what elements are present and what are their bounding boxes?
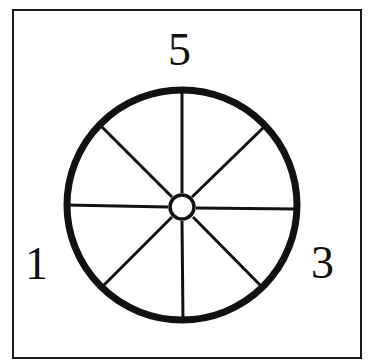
label-left: 1 [25,241,48,287]
spoke-top-left [101,126,172,197]
spoke-bottom-right [193,217,262,287]
spoke-right [196,208,297,209]
spoke-left [66,205,168,207]
label-right: 3 [311,240,334,286]
wheel-hub [170,195,194,219]
label-top: 5 [168,27,191,73]
spoke-top-right [192,128,263,197]
spoke-bottom [182,221,183,322]
spoke-bottom-left [102,217,172,287]
